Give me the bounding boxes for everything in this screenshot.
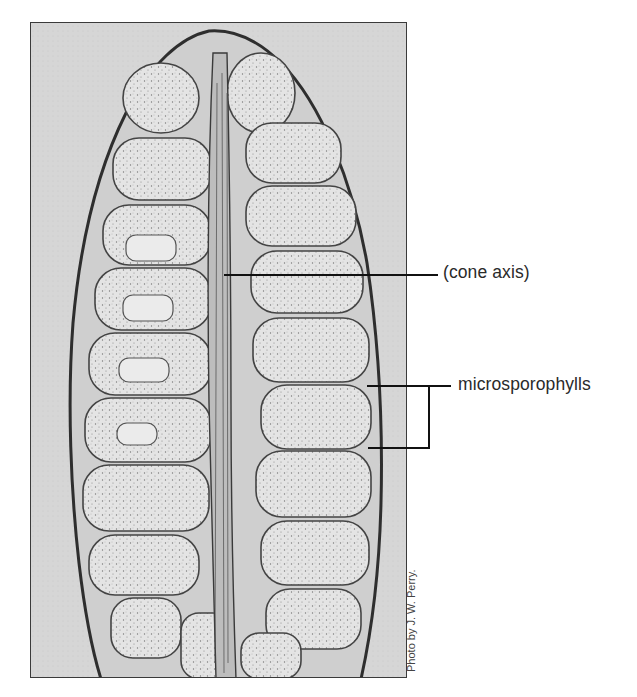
pollen-cone-section-image [31, 23, 407, 678]
micrograph-figure: (cone axis) microsporophylls Photo by J.… [0, 0, 637, 697]
micrograph-photo [30, 22, 407, 678]
cone-axis-label: (cone axis) [443, 262, 530, 283]
microsporophylls-label: microsporophylls [458, 374, 591, 395]
photo-credit: Photo by J. W. Perry. [405, 570, 417, 673]
